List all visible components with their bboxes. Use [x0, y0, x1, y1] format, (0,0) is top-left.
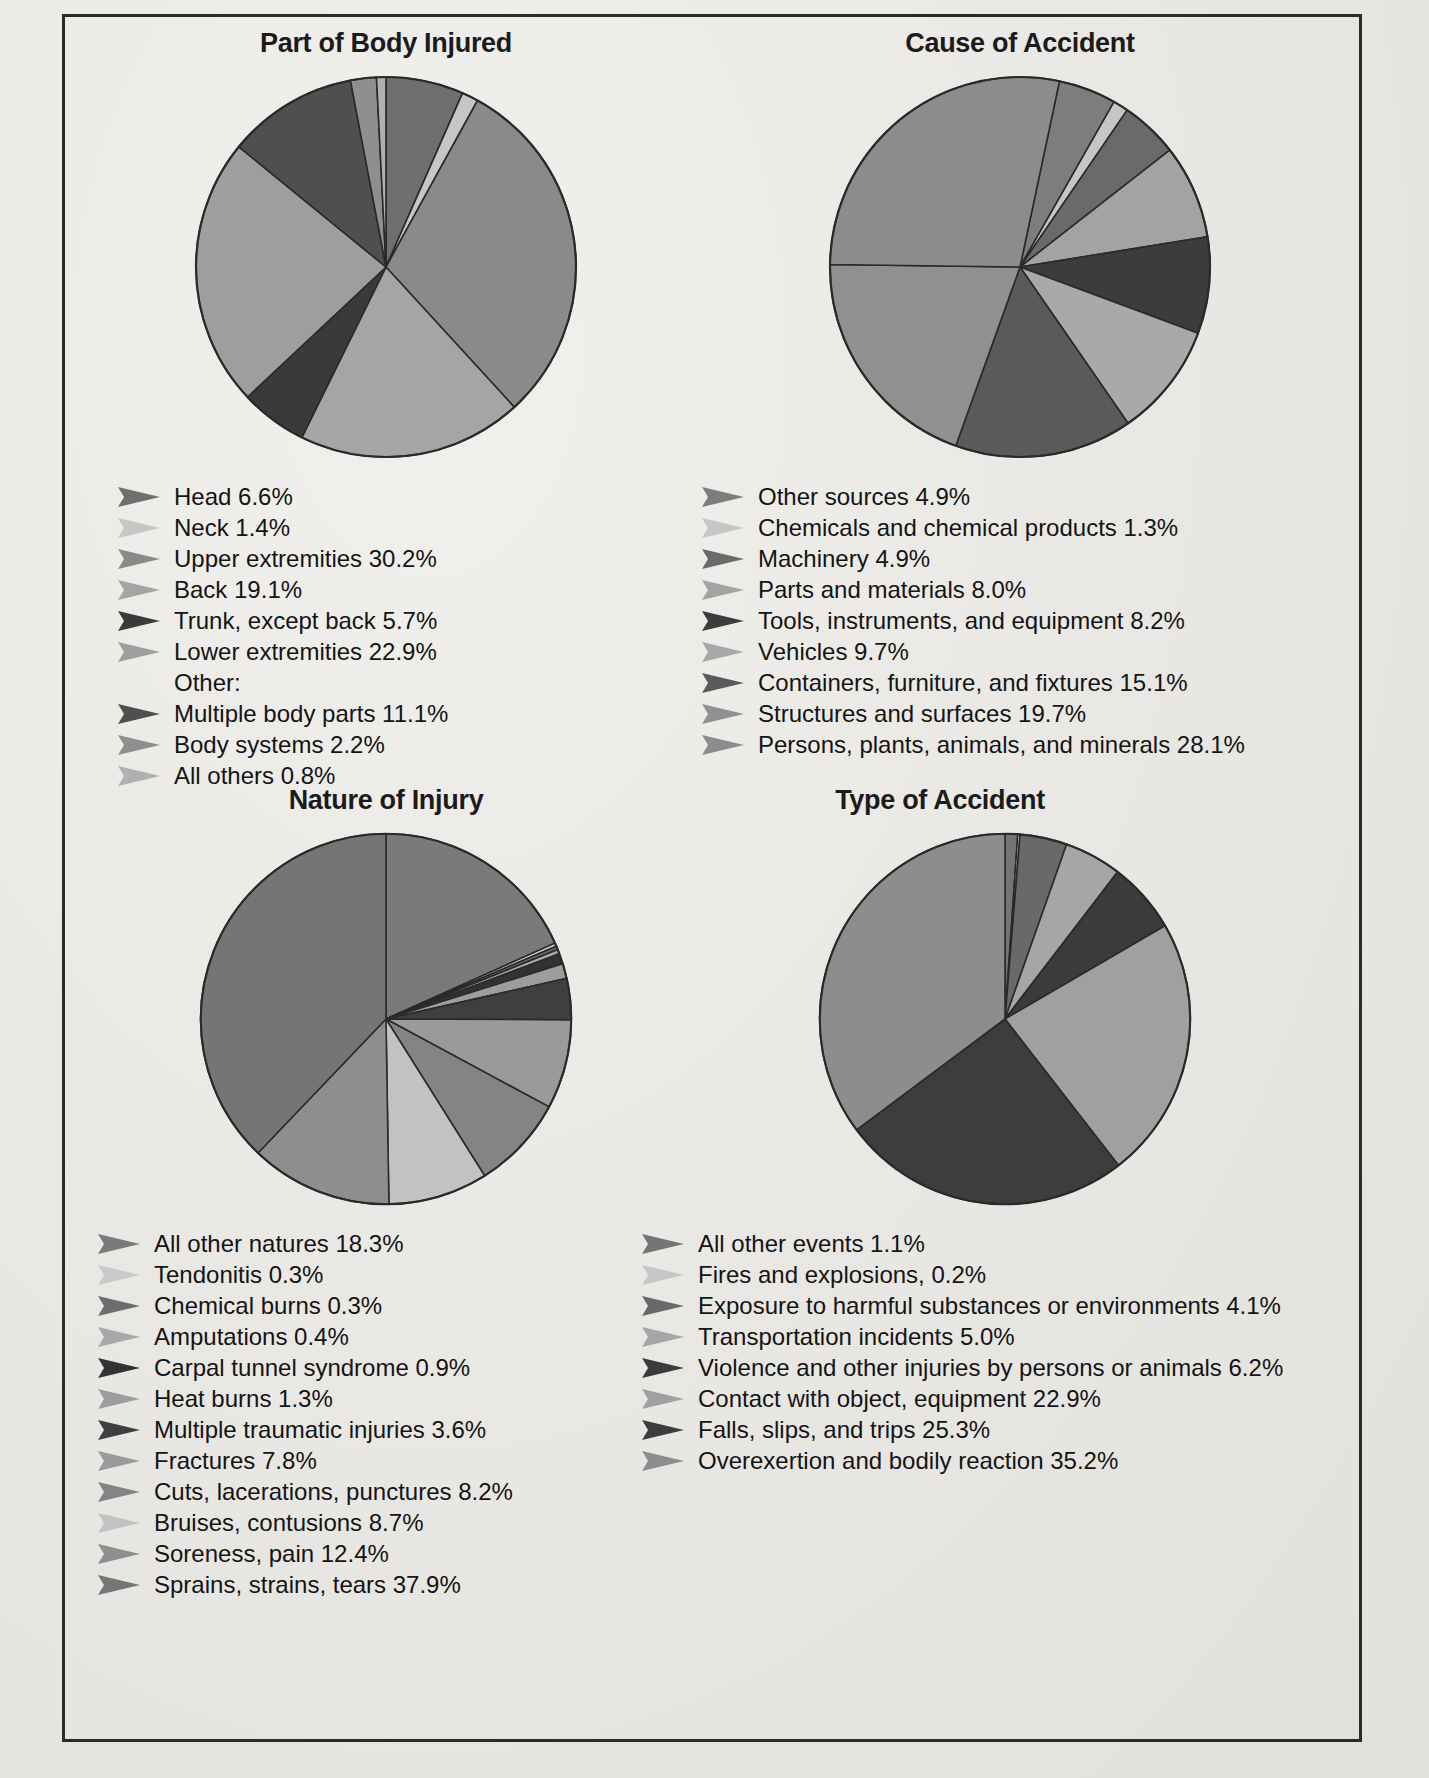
legend-item: Soreness, pain 12.4% — [96, 1538, 686, 1569]
pie-chart-part-of-body-injured — [86, 67, 686, 467]
legend-item: Other sources 4.9% — [700, 481, 1340, 512]
chart-panel-nature-of-injury: Nature of Injury All other natures 18.3%… — [86, 785, 686, 1600]
legend-item: Multiple body parts 11.1% — [116, 698, 686, 729]
legend-arrow-icon — [640, 1324, 694, 1350]
legend-item: Falls, slips, and trips 25.3% — [640, 1414, 1340, 1445]
legend-item: Heat burns 1.3% — [96, 1383, 686, 1414]
legend-item-label: Trunk, except back 5.7% — [174, 608, 437, 634]
legend-arrow-icon — [116, 577, 170, 603]
pie-svg-type-of-accident — [810, 824, 1200, 1214]
legend-arrow-icon — [96, 1231, 150, 1257]
legend-arrow-icon — [700, 577, 754, 603]
legend-item: Back 19.1% — [116, 574, 686, 605]
legend-item: Other: — [116, 667, 686, 698]
legend-item-label: Falls, slips, and trips 25.3% — [698, 1417, 990, 1443]
legend-arrow-icon — [116, 732, 170, 758]
legend-item-label: Fires and explosions, 0.2% — [698, 1262, 986, 1288]
legend-item-label: Heat burns 1.3% — [154, 1386, 333, 1412]
legend-item-label: Violence and other injuries by persons o… — [698, 1355, 1283, 1381]
legend-item-label: All other events 1.1% — [698, 1231, 925, 1257]
legend-arrow-icon — [116, 546, 170, 572]
pie-chart-cause-of-accident — [700, 67, 1340, 467]
legend-part-of-body-injured: Head 6.6%Neck 1.4%Upper extremities 30.2… — [116, 481, 686, 791]
legend-arrow-icon — [96, 1510, 150, 1536]
legend-item: Contact with object, equipment 22.9% — [640, 1383, 1340, 1414]
legend-item-label: Carpal tunnel syndrome 0.9% — [154, 1355, 470, 1381]
legend-item: Exposure to harmful substances or enviro… — [640, 1290, 1340, 1321]
legend-arrow-icon — [96, 1386, 150, 1412]
legend-item-label: Transportation incidents 5.0% — [698, 1324, 1015, 1350]
legend-arrow-icon — [700, 608, 754, 634]
legend-arrow-icon — [96, 1479, 150, 1505]
legend-arrow-icon — [116, 515, 170, 541]
legend-arrow-icon — [640, 1355, 694, 1381]
legend-arrow-icon — [96, 1293, 150, 1319]
legend-item: Head 6.6% — [116, 481, 686, 512]
legend-item: Chemical burns 0.3% — [96, 1290, 686, 1321]
page-title-cause-of-accident: Cause of Accident — [700, 28, 1340, 59]
legend-arrow-icon — [96, 1541, 150, 1567]
legend-arrow-icon — [700, 639, 754, 665]
chart-panel-type-of-accident: Type of Accident All other events 1.1%Fi… — [640, 785, 1340, 1476]
legend-item-label: Multiple traumatic injuries 3.6% — [154, 1417, 486, 1443]
legend-item: Multiple traumatic injuries 3.6% — [96, 1414, 686, 1445]
legend-item: Upper extremities 30.2% — [116, 543, 686, 574]
pie-chart-type-of-accident — [670, 824, 1340, 1214]
legend-item-label: Neck 1.4% — [174, 515, 290, 541]
legend-item: Cuts, lacerations, punctures 8.2% — [96, 1476, 686, 1507]
legend-item-label: Chemical burns 0.3% — [154, 1293, 382, 1319]
legend-arrow-icon — [116, 639, 170, 665]
legend-item: Fires and explosions, 0.2% — [640, 1259, 1340, 1290]
legend-group-label: Other: — [174, 670, 241, 696]
legend-arrow-icon — [96, 1324, 150, 1350]
pie-svg-cause-of-accident — [820, 67, 1220, 467]
pie-svg-nature-of-injury — [191, 824, 581, 1214]
legend-item-label: Tools, instruments, and equipment 8.2% — [758, 608, 1185, 634]
legend-item-label: Fractures 7.8% — [154, 1448, 317, 1474]
legend-item: Transportation incidents 5.0% — [640, 1321, 1340, 1352]
legend-arrow-icon — [640, 1293, 694, 1319]
legend-item-label: Vehicles 9.7% — [758, 639, 909, 665]
page-title-nature-of-injury: Nature of Injury — [86, 785, 686, 816]
legend-item: All other events 1.1% — [640, 1228, 1340, 1259]
legend-item-label: Persons, plants, animals, and minerals 2… — [758, 732, 1245, 758]
legend-arrow-icon — [116, 701, 170, 727]
pie-chart-nature-of-injury — [86, 824, 686, 1214]
legend-item: Containers, furniture, and fixtures 15.1… — [700, 667, 1340, 698]
chart-panel-cause-of-accident: Cause of Accident Other sources 4.9%Chem… — [700, 28, 1340, 760]
legend-item-label: Amputations 0.4% — [154, 1324, 349, 1350]
legend-item-label: Cuts, lacerations, punctures 8.2% — [154, 1479, 513, 1505]
legend-item: Lower extremities 22.9% — [116, 636, 686, 667]
legend-arrow-icon — [640, 1417, 694, 1443]
legend-item-label: Body systems 2.2% — [174, 732, 385, 758]
legend-arrow-icon — [96, 1355, 150, 1381]
legend-item-label: Bruises, contusions 8.7% — [154, 1510, 423, 1536]
legend-item: Amputations 0.4% — [96, 1321, 686, 1352]
legend-arrow-icon — [640, 1231, 694, 1257]
page-title-type-of-accident: Type of Accident — [700, 785, 1180, 816]
legend-arrow-icon — [96, 1417, 150, 1443]
legend-arrow-icon — [116, 484, 170, 510]
legend-arrow-icon — [116, 608, 170, 634]
legend-arrow-icon — [700, 546, 754, 572]
legend-arrow-icon — [640, 1262, 694, 1288]
legend-item-label: Lower extremities 22.9% — [174, 639, 437, 665]
pie-svg-part-of-body-injured — [186, 67, 586, 467]
legend-item: All other natures 18.3% — [96, 1228, 686, 1259]
legend-arrow-icon — [700, 515, 754, 541]
legend-item-label: Back 19.1% — [174, 577, 302, 603]
chart-panel-part-of-body-injured: Part of Body Injured Head 6.6%Neck 1.4%U… — [86, 28, 686, 791]
legend-item-label: Contact with object, equipment 22.9% — [698, 1386, 1101, 1412]
legend-item-label: Head 6.6% — [174, 484, 293, 510]
legend-item: Body systems 2.2% — [116, 729, 686, 760]
legend-item: Persons, plants, animals, and minerals 2… — [700, 729, 1340, 760]
legend-item: Overexertion and bodily reaction 35.2% — [640, 1445, 1340, 1476]
legend-item: Machinery 4.9% — [700, 543, 1340, 574]
legend-item: Tendonitis 0.3% — [96, 1259, 686, 1290]
legend-nature-of-injury: All other natures 18.3%Tendonitis 0.3%Ch… — [96, 1228, 686, 1600]
legend-arrow-icon — [96, 1262, 150, 1288]
legend-item-label: Chemicals and chemical products 1.3% — [758, 515, 1178, 541]
legend-item: Tools, instruments, and equipment 8.2% — [700, 605, 1340, 636]
legend-item: Violence and other injuries by persons o… — [640, 1352, 1340, 1383]
legend-arrow-icon — [96, 1448, 150, 1474]
